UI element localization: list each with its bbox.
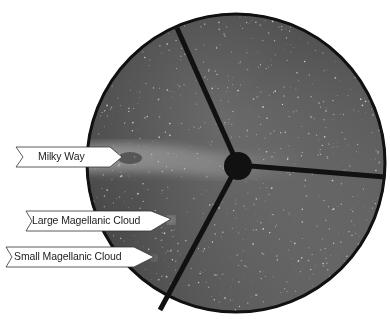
label-text: Small Magellanic Cloud bbox=[14, 250, 122, 262]
label-text: Large Magellanic Cloud bbox=[32, 214, 140, 226]
label-small-magellanic-cloud: Small Magellanic Cloud bbox=[6, 247, 156, 267]
label-large-magellanic-cloud: Large Magellanic Cloud bbox=[26, 211, 174, 231]
label-text: Milky Way bbox=[38, 150, 85, 162]
camera-hub bbox=[224, 152, 252, 180]
label-milky-way: Milky Way bbox=[16, 147, 124, 167]
